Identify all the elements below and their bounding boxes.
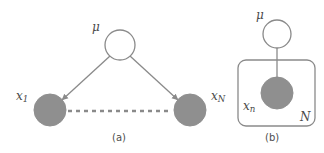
graphical-model-figure [0,0,324,153]
xn-node-label-subscript: N [218,94,226,104]
edge-mu-to-xn [130,56,178,100]
mu-node-plate-label: μ [256,9,264,21]
x1-node-label: x1 [16,90,28,104]
x1-node [34,94,66,126]
x1-node-label-subscript: 1 [23,94,29,104]
panel-a [34,30,206,126]
mu-node [105,30,135,60]
xn-node [174,94,206,126]
caption-panel-b: (b) [265,133,279,143]
mu-node-plate [263,20,291,48]
xn-node-plate-label: xn [243,100,255,114]
caption-panel-a: (a) [112,133,126,143]
xn-node-plate-label-subscript: n [250,104,256,114]
mu-node-label: μ [92,21,100,33]
xn-node-plate [261,77,293,109]
plate-count-label: N [300,111,311,123]
xn-node-label: xN [211,90,225,104]
edge-mu-to-x1 [62,56,110,100]
